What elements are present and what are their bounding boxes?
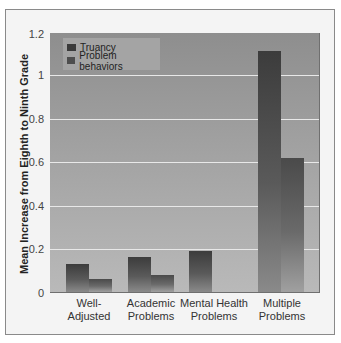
bar-problem-behaviors [151, 275, 174, 292]
bar-truancy [189, 251, 212, 292]
legend-item-problem-behaviors: Problem behaviors [67, 54, 156, 67]
x-label-line: Problems [242, 310, 322, 323]
y-tick: 1 [14, 69, 44, 81]
legend: Truancy Problem behaviors [63, 38, 160, 70]
plot-area: Truancy Problem behaviors [50, 33, 320, 293]
y-tick: 0.4 [14, 200, 44, 212]
x-label-multiple-problems: Multiple Problems [242, 297, 322, 323]
bar-truancy [66, 264, 89, 292]
bar-problem-behaviors [89, 279, 112, 292]
bar-truancy [128, 257, 151, 292]
legend-label: Problem behaviors [79, 50, 156, 72]
x-label-line: Multiple [242, 297, 322, 310]
y-tick: 0.8 [14, 113, 44, 125]
bar-truancy [258, 51, 281, 292]
legend-swatch-icon [67, 44, 76, 51]
y-tick: 0.6 [14, 156, 44, 168]
bar-problem-behaviors [281, 158, 304, 292]
y-tick: 1.2 [14, 28, 44, 40]
legend-swatch-icon [67, 57, 75, 64]
y-tick: 0.2 [14, 243, 44, 255]
y-tick: 0 [14, 287, 44, 299]
